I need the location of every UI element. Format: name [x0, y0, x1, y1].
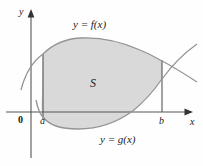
x-axis-label: x: [190, 117, 194, 127]
tick-label-a: a: [40, 116, 45, 126]
x-axis-arrowhead: [185, 109, 194, 116]
tick-label-b: b: [159, 116, 164, 126]
origin-label: 0: [18, 115, 23, 125]
curve-label-f: y = f(x): [73, 19, 106, 30]
curve-label-g: y = g(x): [100, 134, 136, 145]
figure-area-between-curves: y x 0 a b y = f(x) y = g(x) S: [0, 0, 203, 166]
y-axis-arrowhead: [28, 9, 35, 18]
region-label-s: S: [90, 77, 96, 89]
y-axis-label: y: [19, 7, 23, 17]
